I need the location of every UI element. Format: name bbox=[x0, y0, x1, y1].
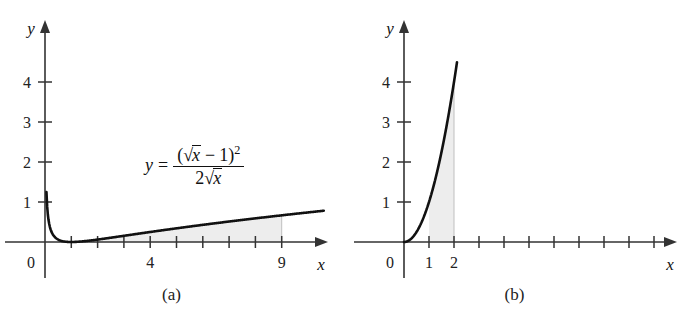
formula-a-den-radicand: x bbox=[213, 168, 222, 188]
formula-a-numerator: (√x−1)2 bbox=[173, 144, 244, 167]
figure-container: 4912340xy y= (√x−1)2 2√x (a) 1212340xy y… bbox=[0, 0, 686, 330]
x-axis-name: x bbox=[316, 255, 325, 274]
x-tick-label: 1 bbox=[425, 254, 433, 271]
x-axis-name: x bbox=[665, 255, 674, 274]
x-tick-label: 4 bbox=[146, 254, 154, 271]
formula-a-two: 2 bbox=[195, 168, 204, 188]
plot-a: 4912340xy bbox=[0, 0, 343, 285]
caption-b: (b) bbox=[343, 285, 686, 305]
formula-a-equals: = bbox=[158, 155, 168, 175]
formula-label-a: y= (√x−1)2 2√x bbox=[145, 144, 244, 189]
panel-b: 1212340xy y=x2 (b) bbox=[343, 0, 686, 330]
formula-a-fraction: (√x−1)2 2√x bbox=[173, 144, 244, 189]
y-axis-name: y bbox=[25, 19, 35, 38]
x-axis-arrowhead bbox=[664, 237, 677, 247]
formula-a-one: 1 bbox=[219, 145, 228, 165]
plot-b: 1212340xy bbox=[343, 0, 686, 285]
y-axis-arrowhead bbox=[40, 20, 50, 33]
y-tick-label: 3 bbox=[382, 114, 390, 131]
y-tick-label: 2 bbox=[23, 154, 31, 171]
formula-a-minus: − bbox=[205, 145, 215, 165]
x-axis-arrowhead bbox=[315, 237, 328, 247]
y-axis-name: y bbox=[384, 19, 394, 38]
y-tick-label: 2 bbox=[382, 154, 390, 171]
y-tick-label: 4 bbox=[23, 74, 31, 91]
y-tick-label: 1 bbox=[23, 194, 31, 211]
caption-a: (a) bbox=[0, 285, 343, 305]
y-axis-arrowhead bbox=[399, 20, 409, 33]
formula-a-denominator: 2√x bbox=[173, 167, 244, 188]
y-tick-label: 1 bbox=[382, 194, 390, 211]
formula-a-exponent: 2 bbox=[234, 143, 240, 157]
origin-label: 0 bbox=[27, 254, 35, 271]
x-tick-label: 2 bbox=[450, 254, 458, 271]
panel-a: 4912340xy y= (√x−1)2 2√x (a) bbox=[0, 0, 343, 330]
origin-label: 0 bbox=[386, 254, 394, 271]
formula-a-lhs: y bbox=[145, 155, 153, 175]
x-tick-label: 9 bbox=[278, 254, 286, 271]
formula-a-radicand: x bbox=[192, 145, 201, 165]
y-tick-label: 4 bbox=[382, 74, 390, 91]
y-tick-label: 3 bbox=[23, 114, 31, 131]
